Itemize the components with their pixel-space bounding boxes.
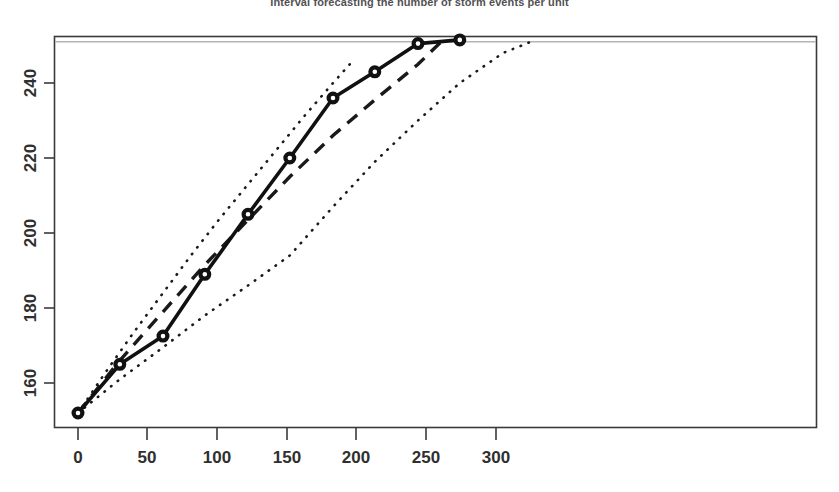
y-axis-tick-labels: 240 220 200 180 160 [21,69,40,397]
x-tick-label: 300 [482,448,510,467]
x-tick-label: 200 [342,448,370,467]
x-tick-label: 250 [412,448,440,467]
y-tick-label: 160 [21,369,40,397]
data-point-marker [370,67,379,76]
data-point-marker [285,154,294,163]
y-tick-label: 200 [21,219,40,247]
x-axis-ticks [78,428,496,441]
x-tick-label: 100 [203,448,231,467]
data-point-marker [414,39,423,48]
chart-figure: Interval forecasting the number of storm… [0,0,839,492]
data-point-marker [74,409,83,418]
y-tick-label: 180 [21,294,40,322]
x-tick-label: 150 [273,448,301,467]
y-axis-ticks [44,83,55,383]
x-tick-label: 50 [138,448,157,467]
chart-plot-area: 240 220 200 180 160 0 50 100 150 200 250… [0,0,839,492]
data-point-marker [115,360,124,369]
data-point-marker [244,210,253,219]
data-point-marker [329,94,338,103]
plot-box [55,37,817,428]
y-tick-label: 220 [21,144,40,172]
data-point-marker [455,36,464,45]
data-point-marker [200,270,209,279]
x-tick-label: 0 [73,448,82,467]
data-point-marker [159,332,168,341]
x-axis-tick-labels: 0 50 100 150 200 250 300 [73,448,510,467]
y-tick-label: 240 [21,69,40,97]
